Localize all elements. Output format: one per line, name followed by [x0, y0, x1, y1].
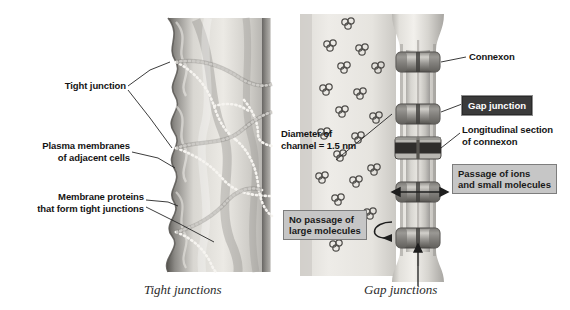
caption-gap-junctions: Gap junctions	[364, 282, 437, 298]
label-plasma-membranes: Plasma membranes of adjacent cells	[8, 140, 130, 163]
label-gap-junction: Gap junction	[462, 96, 532, 115]
label-channel-diameter: Diameter of channel = 1.5 nm	[281, 128, 373, 151]
longitudinal-section-connexon	[395, 137, 441, 159]
label-tight-junction: Tight junction	[18, 80, 126, 92]
label-no-passage: No passage of large molecules	[283, 210, 367, 240]
label-passage-of-ions: Passage of ions and small molecules	[452, 164, 557, 194]
label-connexon: Connexon	[469, 51, 565, 63]
caption-tight-junctions: Tight junctions	[144, 282, 222, 298]
label-longitudinal-section: Longitudinal section of connexon	[462, 124, 568, 147]
label-membrane-proteins: Membrane proteins that form tight juncti…	[4, 191, 144, 214]
figure-root: Tight junction Plasma membranes of adjac…	[0, 0, 570, 310]
